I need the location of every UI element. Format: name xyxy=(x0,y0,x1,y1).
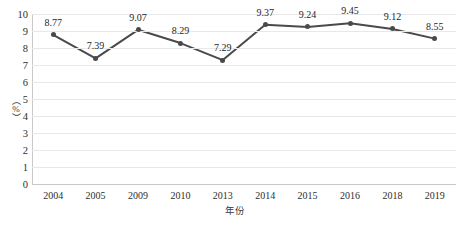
data-point-label: 9.37 xyxy=(256,7,274,18)
y-axis-tick-label: 1 xyxy=(23,162,28,173)
x-axis-tick-label: 2019 xyxy=(425,190,445,201)
gridline xyxy=(32,150,456,151)
x-axis-tick-label: 2015 xyxy=(298,190,318,201)
data-point-label: 9.24 xyxy=(299,9,317,20)
gridline xyxy=(32,82,456,83)
x-axis-tick-label: 2009 xyxy=(128,190,148,201)
y-axis-tick-label: 3 xyxy=(23,128,28,139)
gridline xyxy=(32,99,456,100)
x-axis-tick-label: 2016 xyxy=(340,190,360,201)
y-axis-tick-label: 4 xyxy=(23,111,28,122)
gridline xyxy=(32,184,456,185)
y-axis-title: （%） xyxy=(2,96,20,121)
data-point-label: 8.55 xyxy=(426,21,444,32)
data-point-label: 8.29 xyxy=(172,25,190,36)
data-point-label: 7.39 xyxy=(87,40,105,51)
x-axis-tick-label: 2010 xyxy=(170,190,190,201)
data-point-marker xyxy=(263,22,268,27)
data-point-label: 9.12 xyxy=(384,11,402,22)
data-point-marker xyxy=(348,21,353,26)
y-axis-tick-label: 10 xyxy=(18,9,29,20)
data-point-label: 7.29 xyxy=(214,42,232,53)
data-point-marker xyxy=(93,56,98,61)
x-axis-title: 年份 xyxy=(0,203,470,217)
data-point-label: 9.45 xyxy=(341,5,359,16)
y-axis-tick-label: 6 xyxy=(23,77,28,88)
x-axis-tick-label: 2013 xyxy=(213,190,233,201)
y-axis-tick-label: 9 xyxy=(23,26,28,37)
plot-area: 0123456789102004200520092010201320142015… xyxy=(32,14,456,184)
gridline xyxy=(32,133,456,134)
data-point-marker xyxy=(136,27,141,32)
data-point-label: 8.77 xyxy=(44,17,62,28)
x-axis-tick-label: 2018 xyxy=(382,190,402,201)
series-polyline xyxy=(53,23,435,60)
gridline xyxy=(32,116,456,117)
data-point-marker xyxy=(178,41,183,46)
y-axis-tick-label: 2 xyxy=(23,145,28,156)
x-axis-tick-label: 2005 xyxy=(86,190,106,201)
y-axis-tick-label: 5 xyxy=(23,94,28,105)
x-axis-tick-label: 2004 xyxy=(43,190,63,201)
y-axis-tick-label: 8 xyxy=(23,43,28,54)
line-chart: （%） 012345678910200420052009201020132014… xyxy=(0,0,470,230)
y-axis-tick-label: 0 xyxy=(23,179,28,190)
y-axis-tick-label: 7 xyxy=(23,60,28,71)
gridline xyxy=(32,31,456,32)
gridline xyxy=(32,167,456,168)
data-point-marker xyxy=(220,58,225,63)
x-axis-tick-label: 2014 xyxy=(255,190,275,201)
data-point-label: 9.07 xyxy=(129,12,147,23)
gridline xyxy=(32,65,456,66)
